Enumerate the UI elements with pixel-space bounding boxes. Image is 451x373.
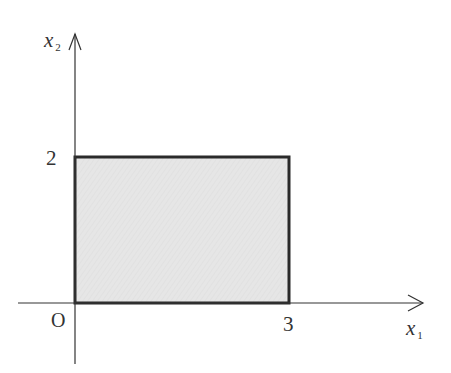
y-axis-label-main: x [44, 28, 53, 52]
x-axis-label-main: x [406, 316, 415, 340]
origin-label: O [51, 310, 65, 330]
y-axis-label: x2 [44, 30, 61, 51]
x-axis-label-subscript: 1 [417, 329, 423, 341]
y-tick-label: 2 [46, 148, 57, 169]
y-axis-label-subscript: 2 [55, 41, 61, 53]
feasible-region [75, 157, 289, 303]
x-axis-label: x1 [406, 318, 423, 339]
diagram-canvas [0, 0, 451, 373]
x-tick-label: 3 [283, 314, 294, 335]
